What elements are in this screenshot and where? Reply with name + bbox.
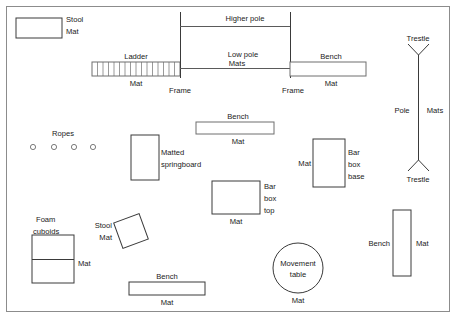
label-bench-middle: Bench [227,112,249,121]
label-bench-right: Bench [368,239,390,248]
label-low-pole: Low pole [228,50,258,59]
label-bar-box-top-line1: Bar [264,182,276,191]
foam-cuboids[interactable] [32,235,74,283]
rope-dot [30,144,35,149]
label-mat-top-left: Mat [66,27,80,36]
matted-springboard[interactable] [131,135,159,180]
movement-table[interactable] [273,243,323,293]
rope-dot [71,144,76,149]
label-mat-bottom: Mat [161,298,175,307]
label-mat-ladder: Mat [130,79,144,88]
label-frame-right: Frame [282,86,304,95]
label-foam-line2: cuboids [33,227,59,236]
label-mat-rotated: Mat [99,233,113,242]
label-stool-rotated: Stool [95,221,113,230]
label-bench-bottom: Bench [156,272,178,281]
bench-mat-top-right[interactable] [290,62,366,76]
bar-box-top[interactable] [212,181,260,214]
label-trestle-top: Trestle [407,34,430,43]
trestle-bottom-left-arm [408,160,419,171]
bar-box-base[interactable] [313,139,345,187]
ladder[interactable] [92,62,180,76]
label-mat-bar-box-base: Mat [298,159,312,168]
label-matted: Matted [161,148,184,157]
label-foam-line1: Foam [36,215,55,224]
rope-dot [90,144,95,149]
gym-layout-plan: Stool Mat Ladder Mat Frame Higher pole L… [0,0,456,318]
label-bar-box-base-line2: box [348,160,360,169]
label-movement: Movement [280,259,316,268]
label-mat-top-right: Mat [325,79,339,88]
label-mat-right: Mat [416,239,430,248]
label-mat-bar-box-top: Mat [230,217,244,226]
label-bar-box-base-line3: base [348,172,364,181]
layout-canvas: Stool Mat Ladder Mat Frame Higher pole L… [0,0,456,318]
label-stool-top-left: Stool [66,15,84,24]
label-ladder: Ladder [124,52,148,61]
label-springboard: springboard [161,160,201,169]
label-mats-right: Mats [427,106,444,115]
label-table: table [290,270,306,279]
label-mat-movement: Mat [292,296,306,305]
label-higher-pole: Higher pole [226,14,265,23]
label-bar-box-top-line2: box [264,194,276,203]
label-bar-box-top-line3: top [264,206,275,215]
label-mat-foam: Mat [78,259,92,268]
stool-mat-rotated[interactable] [114,214,149,249]
trestle-top-left-arm [408,44,419,55]
bench-mat-right[interactable] [393,210,411,276]
label-bar-box-base-line1: Bar [348,148,360,157]
trestle-bottom-right-arm [419,160,430,171]
trestle-top-right-arm [419,44,430,55]
bench-mat-middle[interactable] [196,122,274,134]
label-bench-top-right: Bench [320,52,342,61]
label-frame-left: Frame [169,86,191,95]
rope-dot [51,144,56,149]
ropes[interactable] [30,144,95,149]
label-pole: Pole [394,106,409,115]
stool-mat-top-left[interactable] [16,18,62,38]
label-mats-pole: Mats [229,59,246,68]
label-mat-middle: Mat [232,137,246,146]
label-ropes: Ropes [52,129,74,138]
bench-mat-bottom[interactable] [129,282,205,295]
label-trestle-bottom: Trestle [407,175,430,184]
